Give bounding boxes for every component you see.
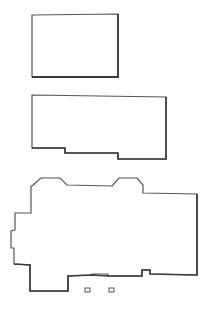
outline-upper-rectangle <box>32 14 118 77</box>
marker-box-right <box>109 288 114 292</box>
upper-rect-shadow-edge <box>32 14 118 77</box>
marker-box-left <box>85 288 90 292</box>
lower-shape-shadow-edge <box>14 194 197 291</box>
outline-middle-stepped <box>32 95 166 159</box>
floor-plan-sketch <box>0 0 211 312</box>
middle-shape-shadow-edge <box>32 97 166 159</box>
